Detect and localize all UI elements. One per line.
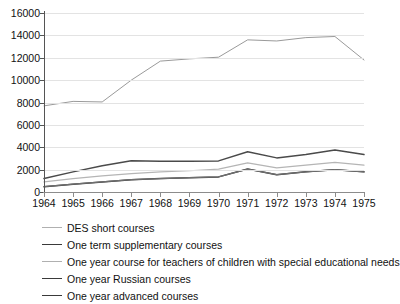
y-tick-label: 0 [2, 187, 40, 197]
legend-item[interactable]: DES short courses [42, 219, 372, 236]
gridline [44, 147, 364, 148]
legend-item-label: One term supplementary courses [67, 239, 222, 251]
x-tick-label: 1966 [90, 197, 113, 209]
legend-line-icon [42, 295, 62, 296]
gridline [44, 80, 364, 81]
y-axis-labels: 0200040006000800010000120001400016000 [0, 0, 40, 212]
legend-line-icon [42, 244, 62, 245]
legend-item-label: One year course for teachers of children… [67, 256, 400, 268]
x-tick-label: 1965 [61, 197, 84, 209]
y-tick-label: 14000 [2, 30, 40, 40]
y-tick-label: 2000 [2, 165, 40, 175]
legend-item[interactable]: One year Russian courses [42, 270, 372, 287]
gridline [44, 35, 364, 36]
x-tick-label: 1975 [352, 197, 375, 209]
gridline [44, 170, 364, 171]
legend-line-icon [42, 261, 62, 262]
legend-item-label: DES short courses [67, 222, 155, 234]
gridline [44, 58, 364, 59]
gridline [44, 125, 364, 126]
x-tick-label: 1972 [265, 197, 288, 209]
line-chart: 0200040006000800010000120001400016000 19… [0, 0, 372, 212]
y-tick-label: 6000 [2, 120, 40, 130]
y-tick-label: 16000 [2, 8, 40, 18]
x-tick-label: 1969 [178, 197, 201, 209]
y-tick-label: 12000 [2, 53, 40, 63]
x-tick-label: 1971 [236, 197, 259, 209]
y-tick-label: 4000 [2, 142, 40, 152]
gridline [44, 103, 364, 104]
y-axis-line [44, 11, 45, 194]
x-tick-label: 1964 [32, 197, 55, 209]
x-tick-label: 1974 [323, 197, 346, 209]
legend-item[interactable]: One year course for teachers of children… [42, 253, 372, 270]
chart-legend: DES short coursesOne term supplementary … [42, 219, 372, 304]
x-tick-label: 1967 [120, 197, 143, 209]
x-tick-label: 1970 [207, 197, 230, 209]
x-tick-label: 1973 [294, 197, 317, 209]
legend-item-label: One year Russian courses [67, 273, 191, 285]
legend-item[interactable]: One term supplementary courses [42, 236, 372, 253]
series-line [44, 162, 364, 182]
legend-item-label: One year advanced courses [67, 290, 198, 302]
x-axis-labels: 1964196519661967196819691970197119721973… [0, 197, 372, 213]
legend-item[interactable]: One year advanced courses [42, 287, 372, 304]
legend-line-icon [42, 227, 62, 228]
x-tick-label: 1968 [149, 197, 172, 209]
gridline [44, 13, 364, 14]
legend-line-icon [42, 278, 62, 279]
y-tick-label: 8000 [2, 98, 40, 108]
y-tick-label: 10000 [2, 75, 40, 85]
plot-area [44, 13, 364, 192]
series-line [44, 36, 364, 105]
